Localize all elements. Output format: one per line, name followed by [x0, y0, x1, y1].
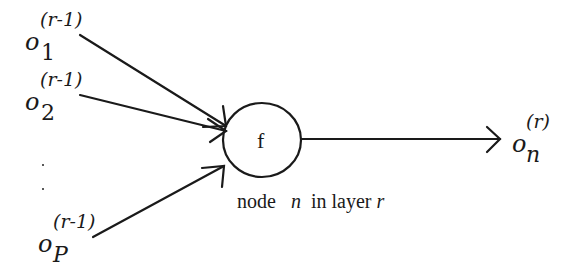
input-1-base: o: [25, 28, 39, 56]
ellipsis-dot-2: [42, 188, 44, 190]
ellipsis-dot-1: [42, 164, 44, 166]
output-superscript: (r): [526, 110, 550, 132]
input-p-subscript: P: [53, 242, 68, 267]
input-2-subscript: 2: [41, 100, 55, 125]
input-1-superscript: (r-1): [40, 8, 82, 30]
caption-word-in-layer: in layer: [311, 190, 372, 212]
node-function-label: f: [257, 128, 264, 154]
caption-var-r: r: [376, 190, 384, 212]
input-2-label: o (r-1) 2: [25, 88, 39, 116]
input-p-base: o: [38, 230, 52, 258]
caption-var-n: n: [291, 190, 301, 212]
diagram-lines: [0, 0, 574, 273]
input-1-subscript: 1: [41, 40, 55, 65]
input-p-label: o (r-1) P: [38, 230, 52, 258]
input-p-arrow: [93, 166, 224, 237]
output-base: o: [512, 130, 526, 158]
input-p-superscript: (r-1): [53, 210, 95, 232]
output-label: o (r) n: [512, 130, 526, 158]
input-1-label: o (r-1) 1: [25, 28, 39, 56]
neuron-diagram: o (r-1) 1 o (r-1) 2 o (r-1) P f o (r) n …: [0, 0, 574, 273]
input-2-superscript: (r-1): [40, 68, 82, 90]
output-subscript: n: [526, 142, 540, 167]
input-2-base: o: [25, 88, 39, 116]
caption-word-node: node: [237, 190, 276, 212]
node-caption: node n in layer r: [237, 190, 384, 213]
